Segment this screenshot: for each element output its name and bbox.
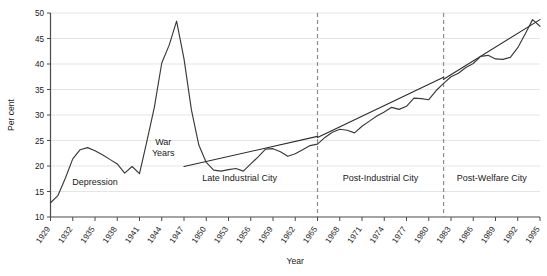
era-post-industrial: Post-Industrial City [343, 173, 419, 183]
x-tick-label-1929: 1929 [34, 225, 52, 245]
x-tick-label-1956: 1956 [235, 225, 253, 245]
x-tick-label-1986: 1986 [457, 225, 475, 245]
x-axis-ticks [51, 217, 541, 221]
era-labels: Late Industrial CityPost-Industrial City… [202, 173, 527, 183]
x-tick-label-1944: 1944 [146, 225, 164, 245]
x-tick-label-1947: 1947 [168, 225, 186, 245]
era-post-welfare: Post-Welfare City [457, 173, 527, 183]
x-tick-label-1938: 1938 [101, 225, 119, 245]
y-tick-label-45: 45 [35, 35, 45, 44]
annotation-depression-line-1: Depression [72, 177, 118, 187]
x-tick-label-1974: 1974 [368, 225, 386, 245]
annotation-war-years-line-1: War [155, 137, 171, 147]
x-tick-label-1989: 1989 [479, 225, 497, 245]
trend-lines [184, 20, 540, 167]
x-tick-label-1950: 1950 [190, 225, 208, 245]
annotation-war-years-line-2: Years [152, 148, 175, 158]
y-tick-label-50: 50 [35, 9, 45, 18]
y-tick-label-10: 10 [35, 213, 45, 222]
x-tick-label-1941: 1941 [123, 225, 141, 245]
x-tick-label-1968: 1968 [324, 225, 342, 245]
x-tick-label-1962: 1962 [279, 225, 297, 245]
per-cent-by-year-line-chart: 101520253035404550 192919321935193819411… [0, 0, 547, 276]
x-tick-label-1971: 1971 [346, 225, 364, 245]
y-tick-label-35: 35 [35, 86, 45, 95]
x-tick-label-1992: 1992 [502, 225, 520, 245]
post-welfare-trend [444, 20, 540, 80]
x-tick-label-1980: 1980 [413, 225, 431, 245]
x-tick-label-1935: 1935 [79, 225, 97, 245]
chart-annotations: DepressionWarYears [72, 137, 175, 187]
x-axis-title: Year [287, 256, 305, 266]
x-tick-label-1983: 1983 [435, 225, 453, 245]
y-axis-tick-labels: 101520253035404550 [35, 9, 45, 222]
y-tick-label-20: 20 [35, 162, 45, 171]
y-tick-label-15: 15 [35, 188, 45, 197]
x-tick-label-1959: 1959 [257, 225, 275, 245]
x-tick-label-1965: 1965 [301, 225, 319, 245]
x-tick-label-1977: 1977 [390, 225, 408, 245]
x-tick-label-1953: 1953 [212, 225, 230, 245]
y-tick-label-30: 30 [35, 111, 45, 120]
grid-lines [51, 13, 541, 192]
post-industrial-trend [318, 77, 444, 137]
x-axis-tick-labels: 1929193219351938194119441947195019531956… [34, 225, 542, 245]
y-axis-title: Per cent [6, 98, 16, 131]
x-tick-label-1995: 1995 [524, 225, 542, 245]
y-tick-label-25: 25 [35, 137, 45, 146]
y-tick-label-40: 40 [35, 60, 45, 69]
x-tick-label-1932: 1932 [57, 225, 75, 245]
chart-container: 101520253035404550 192919321935193819411… [0, 0, 547, 276]
era-late-industrial: Late Industrial City [202, 173, 277, 183]
